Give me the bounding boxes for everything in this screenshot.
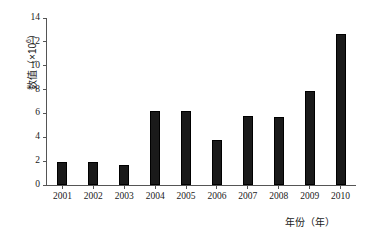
x-axis-title: 年份（年） [250,214,370,229]
y-axis-tick-mark [43,65,47,66]
y-axis-tick-label: 14 [31,11,41,24]
bar [274,117,284,185]
y-axis-tick-mark [43,18,47,19]
bar [57,162,67,185]
bar [150,111,160,185]
x-axis-tick-mark [186,185,187,189]
x-axis-tick-mark [278,185,279,189]
x-axis-tick-mark [247,185,248,189]
bar [243,116,253,185]
y-axis-tick-mark [43,113,47,114]
x-axis-tick-mark [93,185,94,189]
y-axis-tick-mark [43,41,47,42]
bar [181,111,191,185]
x-axis-tick-mark [309,185,310,189]
bar [336,34,346,185]
y-axis-tick-label: 12 [31,35,41,48]
x-axis-tick-mark [155,185,156,189]
y-axis-tick-label: 0 [35,178,40,191]
y-axis-tick-mark [43,137,47,138]
x-axis-tick-mark [124,185,125,189]
x-axis-tick-mark [340,185,341,189]
bar-chart-figure: 数值（×106） 0246810121420012002200320042005… [0,0,378,236]
x-axis-tick-label: 2010 [323,191,359,201]
bar [88,162,98,185]
y-axis-tick-label: 10 [31,59,41,72]
bar [212,140,222,185]
y-axis-tick-label: 6 [35,106,40,119]
y-axis-tick-mark [43,185,47,186]
plot-area: 0246810121420012002200320042005200620072… [46,18,356,186]
bar [119,165,129,185]
y-axis-tick-mark [43,161,47,162]
y-axis-tick-label: 2 [35,154,40,167]
y-axis-tick-label: 8 [35,83,40,96]
x-axis-tick-mark [62,185,63,189]
x-axis-tick-mark [216,185,217,189]
bar [305,91,315,185]
y-axis-tick-mark [43,89,47,90]
y-axis-tick-label: 4 [35,130,40,143]
